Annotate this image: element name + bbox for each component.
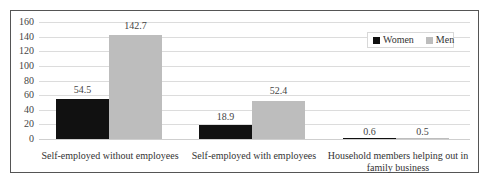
bar-women-self-employed-without-employees: [56, 99, 109, 139]
gridline: [39, 81, 470, 82]
y-tick-140: 140: [12, 32, 34, 42]
value-label: 18.9: [201, 112, 251, 122]
legend-label-men: Men: [436, 33, 454, 47]
zero-line: [39, 139, 470, 140]
value-label: 0.5: [398, 127, 448, 137]
y-tick-160: 160: [12, 17, 34, 27]
bar-men-self-employed-without-employees: [109, 35, 162, 139]
x-label-self-employed-without-employees: Self-employed without employees: [38, 150, 182, 162]
legend-item-men: Men: [426, 33, 454, 47]
value-label: 0.6: [345, 127, 395, 137]
x-label-household-line1: Household members helping out in: [326, 150, 470, 162]
bar-men-household-members: [396, 138, 449, 139]
y-tick-120: 120: [12, 46, 34, 56]
bar-women-household-members: [343, 138, 396, 139]
value-label: 52.4: [254, 86, 304, 96]
y-tick-0: 0: [12, 134, 34, 144]
y-tick-100: 100: [12, 61, 34, 71]
bar-women-self-employed-with-employees: [199, 125, 252, 139]
legend-swatch-women: [373, 37, 380, 44]
y-tick-60: 60: [12, 90, 34, 100]
legend-swatch-men: [426, 37, 433, 44]
gridline: [39, 22, 470, 23]
legend-label-women: Women: [383, 33, 414, 47]
y-tick-40: 40: [12, 105, 34, 115]
y-tick-20: 20: [12, 119, 34, 129]
x-label-household-line2: family business: [326, 162, 470, 174]
y-tick-80: 80: [12, 76, 34, 86]
x-label-self-employed-with-employees: Self-employed with employees: [182, 150, 326, 162]
legend: Women Men: [367, 32, 454, 48]
x-label-household-members: Household members helping out in family …: [326, 150, 470, 174]
gridline: [39, 66, 470, 67]
value-label: 142.7: [111, 21, 161, 31]
legend-item-women: Women: [373, 33, 414, 47]
value-label: 54.5: [58, 85, 108, 95]
gridline: [39, 51, 470, 52]
bar-men-self-employed-with-employees: [252, 101, 305, 139]
